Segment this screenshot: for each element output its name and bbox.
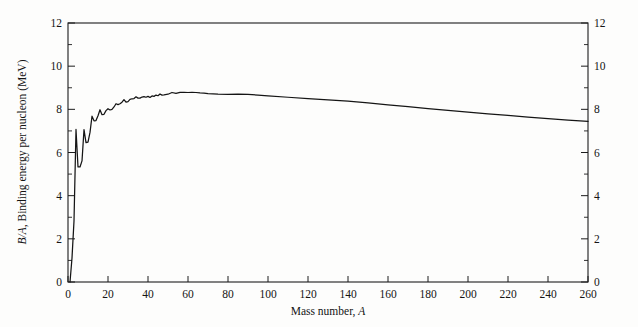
x-tick-label: 80: [222, 288, 234, 300]
binding-energy-curve: [70, 92, 588, 282]
x-tick-label: 120: [299, 288, 317, 300]
x-axis-title-text: Mass number,: [291, 305, 356, 318]
binding-energy-chart: 0204060801001201401601802002202402600022…: [0, 0, 638, 327]
x-axis-title-symbol: A: [357, 305, 366, 317]
y-tick-label-left: 12: [51, 17, 63, 29]
y-axis-title-symbol: B/A: [16, 226, 28, 244]
x-tick-label: 220: [499, 288, 517, 300]
y-tick-label-right: 8: [594, 103, 600, 115]
x-tick-label: 160: [379, 288, 397, 300]
y-axis-title-text: , Binding energy per nucleon (MeV): [16, 59, 29, 227]
y-tick-label-left: 4: [56, 190, 62, 202]
y-axis-title: B/A, Binding energy per nucleon (MeV): [16, 59, 29, 244]
x-axis-title: Mass number, A: [291, 305, 367, 318]
axis-ticks: [68, 23, 588, 282]
y-tick-label-left: 0: [56, 276, 62, 288]
y-tick-label-left: 8: [56, 103, 62, 115]
x-tick-label: 240: [539, 288, 557, 300]
x-tick-label: 20: [102, 288, 114, 300]
y-tick-label-right: 10: [594, 60, 606, 72]
y-tick-label-left: 2: [56, 233, 62, 245]
figure-container: 0204060801001201401601802002202402600022…: [0, 0, 638, 327]
x-tick-label: 100: [259, 288, 277, 300]
x-tick-label: 0: [65, 288, 71, 300]
plot-frame: [68, 23, 588, 282]
y-tick-label-right: 6: [594, 147, 600, 159]
x-tick-label: 40: [142, 288, 154, 300]
x-tick-label: 180: [419, 288, 437, 300]
x-tick-label: 60: [182, 288, 194, 300]
y-tick-label-left: 6: [56, 147, 62, 159]
y-tick-label-right: 4: [594, 190, 600, 202]
x-tick-label: 200: [459, 288, 477, 300]
y-tick-label-right: 12: [594, 17, 606, 29]
x-tick-label: 260: [579, 288, 597, 300]
y-tick-label-right: 2: [594, 233, 600, 245]
y-tick-label-right: 0: [594, 276, 600, 288]
x-tick-label: 140: [339, 288, 357, 300]
y-tick-label-left: 10: [51, 60, 63, 72]
tick-labels: 0204060801001201401601802002202402600022…: [51, 17, 606, 300]
